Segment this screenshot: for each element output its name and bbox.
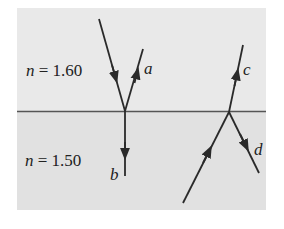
ray-c-label: c — [243, 60, 251, 79]
refraction-diagram: n = 1.60 n = 1.50 a b c d — [0, 0, 284, 229]
ray-d-label: d — [254, 140, 263, 159]
ray-a-label: a — [144, 59, 153, 78]
ray-b-label: b — [110, 165, 119, 184]
upper-medium — [17, 8, 266, 111]
lower-medium-label: n = 1.50 — [25, 151, 81, 170]
upper-medium-label: n = 1.60 — [26, 61, 82, 80]
